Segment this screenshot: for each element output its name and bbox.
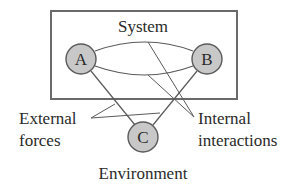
internal-interactions-label-line1: Internal xyxy=(198,109,251,128)
node-c: C xyxy=(128,122,158,152)
node-c-label: C xyxy=(137,128,148,147)
system-environment-diagram: A B C System External forces Internal in… xyxy=(0,0,301,188)
external-forces-label-line1: External xyxy=(19,109,77,128)
node-a-label: A xyxy=(75,50,88,69)
internal-arc-bottom xyxy=(95,66,193,75)
environment-label: Environment xyxy=(99,164,188,183)
external-forces-label-line2: forces xyxy=(19,131,61,150)
node-a: A xyxy=(66,44,96,74)
internal-pointer-2 xyxy=(148,75,194,117)
node-b: B xyxy=(192,44,222,74)
internal-pointer-1 xyxy=(148,42,194,117)
internal-interactions-label-line2: interactions xyxy=(198,131,277,150)
system-label: System xyxy=(118,17,168,36)
node-b-label: B xyxy=(201,50,212,69)
external-pointer-1 xyxy=(91,104,115,118)
internal-arc-top xyxy=(95,42,193,51)
